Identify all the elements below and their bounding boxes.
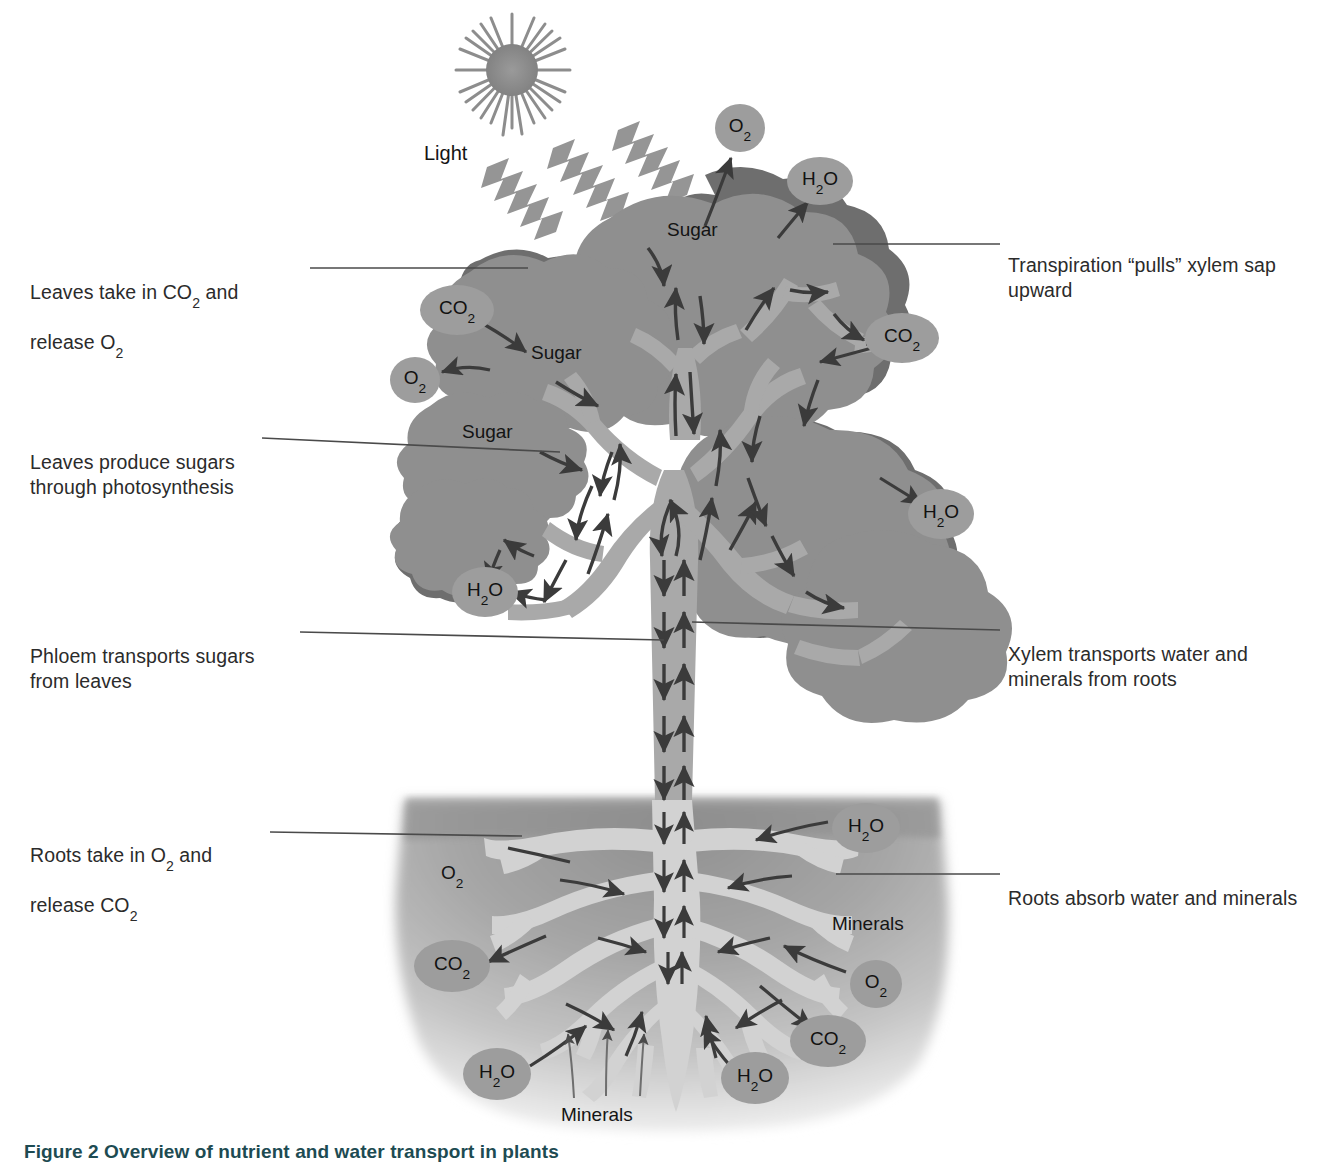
label-sugar-top: Sugar [667, 219, 718, 241]
bubble-label-h2o-soil-left: H2O [464, 1061, 530, 1083]
figure-canvas: Leaves take in CO2 and release O2 Leaves… [0, 0, 1340, 1162]
bubble-label-o2-canopy-left: O2 [390, 367, 440, 389]
callout-xylem: Xylem transports water andminerals from … [1008, 617, 1338, 692]
bubble-label-o2-soil-right: O2 [851, 971, 901, 993]
callout-transpiration: Transpiration “pulls” xylem sapupward [1008, 228, 1338, 303]
bubble-label-h2o-canopy-lowleft: H2O [452, 579, 518, 601]
bubble-label-h2o-canopy-topright: H2O [787, 168, 853, 190]
bubble-label-co2-canopy-left: CO2 [420, 297, 494, 319]
bubble-label-h2o-canopy-right: H2O [908, 501, 974, 523]
bubble-label-h2o-soil-bottom: H2O [722, 1065, 788, 1087]
label-minerals-bottom: Minerals [561, 1104, 633, 1126]
label-light: Light [424, 142, 467, 165]
callout-roots-o2: Roots take in O2 and release CO2 [30, 818, 310, 918]
bubble-label-h2o-soil-right: H2O [833, 815, 899, 837]
callout-leaves-co2: Leaves take in CO2 and release O2 [30, 255, 310, 355]
bubble-label-co2-canopy-right: CO2 [865, 325, 939, 347]
label-sugar-low: Sugar [462, 421, 513, 443]
label-minerals-right: Minerals [832, 913, 904, 935]
tree-canopy-front [390, 194, 1012, 723]
plant-transport-diagram [0, 0, 1340, 1162]
bubble-label-o2-canopy-top: O2 [715, 115, 765, 137]
label-sugar-mid: Sugar [531, 342, 582, 364]
sun-icon [456, 14, 570, 135]
callout-roots-absorb: Roots absorb water and minerals [1008, 861, 1338, 911]
label-o2-soil-upper: O2 [441, 862, 463, 884]
callout-leaves-sugars: Leaves produce sugarsthrough photosynthe… [30, 425, 310, 500]
callout-phloem: Phloem transports sugarsfrom leaves [30, 619, 320, 694]
leader-phloem [300, 632, 664, 640]
figure-caption: Figure 2 Overview of nutrient and water … [24, 1141, 559, 1162]
bubble-label-co2-soil-left: CO2 [415, 953, 489, 975]
bubble-label-co2-soil-right: CO2 [791, 1028, 865, 1050]
